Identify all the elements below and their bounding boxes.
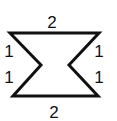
notched-hexagon-shape [10,33,99,96]
edge-label-left-upper: 1 [4,42,13,61]
edge-label-right-upper: 1 [94,42,103,61]
edge-label-top: 2 [47,13,56,32]
edge-label-left-lower: 1 [4,68,13,87]
edge-label-bottom: 2 [49,103,58,121]
hexagon-diagram: 2 1 1 2 1 1 [0,0,117,121]
edge-label-right-lower: 1 [94,68,103,87]
